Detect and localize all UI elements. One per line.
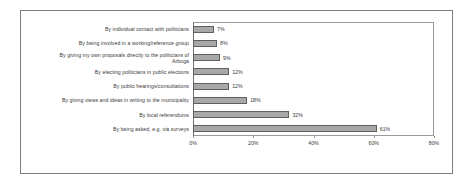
x-axis: 0% 20% 40% 60% 80%: [193, 136, 434, 157]
bar-value-label: 8%: [220, 40, 228, 46]
chart-row: By individual contact with politicians 7…: [42, 22, 434, 36]
bar[interactable]: [193, 125, 377, 132]
category-label: By local referendums: [42, 112, 193, 118]
chart-plot-wrapper: By individual contact with politicians 7…: [42, 22, 434, 157]
bar-zone: 8%: [193, 36, 434, 50]
chart-frame: By individual contact with politicians 7…: [20, 10, 453, 174]
bar-zone: 9%: [193, 51, 434, 65]
category-label: By electing politicians in public electi…: [42, 69, 193, 75]
category-label: By public hearings/consultations: [42, 83, 193, 89]
bar-zone: 32%: [193, 108, 434, 122]
category-label: By being involved in a working/reference…: [42, 40, 193, 46]
bar-zone: 7%: [193, 22, 434, 36]
bar-zone: 12%: [193, 79, 434, 93]
chart-row: By being involved in a working/reference…: [42, 36, 434, 50]
chart-row: By being asked, e.g. via surveys 61%: [42, 122, 434, 136]
chart-row: By public hearings/consultations 12%: [42, 79, 434, 93]
chart-row: By giving views and ideas in writing to …: [42, 93, 434, 107]
x-tick-label: 20%: [248, 140, 258, 146]
bar[interactable]: [193, 40, 217, 47]
category-label: By being asked, e.g. via surveys: [42, 126, 193, 132]
bar-zone: 18%: [193, 93, 434, 107]
x-tick-label: 60%: [369, 140, 379, 146]
bar-value-label: 12%: [232, 83, 242, 89]
bar-value-label: 7%: [217, 26, 225, 32]
x-tick-label: 0%: [189, 140, 197, 146]
chart-row: By electing politicians in public electi…: [42, 65, 434, 79]
bar-zone: 61%: [193, 122, 434, 136]
x-tick-label: 40%: [308, 140, 318, 146]
bar[interactable]: [193, 83, 229, 90]
bar[interactable]: [193, 97, 247, 104]
bar-value-label: 9%: [223, 55, 231, 61]
bar-value-label: 18%: [250, 97, 260, 103]
chart-row: By giving my own proposals directly to t…: [42, 51, 434, 65]
bar[interactable]: [193, 111, 289, 118]
bar-value-label: 32%: [292, 112, 302, 118]
bar[interactable]: [193, 26, 214, 33]
bar[interactable]: [193, 68, 229, 75]
bar-value-label: 12%: [232, 69, 242, 75]
chart-row: By local referendums 32%: [42, 108, 434, 122]
chart-bar-rows: By individual contact with politicians 7…: [42, 22, 434, 136]
category-label: By individual contact with politicians: [42, 26, 193, 32]
x-tick-label: 80%: [429, 140, 439, 146]
category-label: By giving my own proposals directly to t…: [42, 52, 193, 64]
bar-value-label: 61%: [380, 126, 390, 132]
bar[interactable]: [193, 54, 220, 61]
category-label: By giving views and ideas in writing to …: [42, 97, 193, 103]
bar-zone: 12%: [193, 65, 434, 79]
